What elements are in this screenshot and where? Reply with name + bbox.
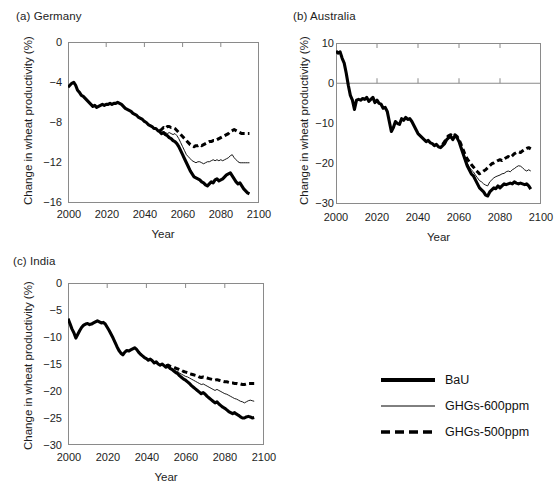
legend-item-ghgs-600ppm: GHGs-600ppm xyxy=(380,399,529,413)
y-tick-germany-3: −12 xyxy=(24,156,62,168)
plot-area-india xyxy=(68,283,264,445)
x-axis-label-germany: Year xyxy=(68,228,258,240)
panel-australia: (b) Australia Change in wheat productivi… xyxy=(280,0,559,250)
x-tick-india-5: 2100 xyxy=(241,451,287,463)
y-tick-india-3: −15 xyxy=(24,358,62,370)
y-tick-germany-0: 0 xyxy=(24,36,62,48)
legend-label-ghgs-600ppm: GHGs-600ppm xyxy=(445,399,529,413)
y-tick-australia-2: −10 xyxy=(296,117,334,129)
legend-item-bau: BaU xyxy=(380,373,469,387)
panel-title-germany: (a) Germany xyxy=(16,10,82,22)
panel-title-india: (c) India xyxy=(13,255,55,267)
plot-area-germany xyxy=(68,42,259,203)
x-tick-australia-1: 2020 xyxy=(354,211,400,223)
x-tick-australia-5: 2100 xyxy=(518,211,559,223)
x-axis-label-australia: Year xyxy=(336,231,541,243)
x-tick-australia-3: 2060 xyxy=(436,211,482,223)
y-tick-australia-0: 10 xyxy=(296,37,334,49)
legend-swatch-bau xyxy=(380,373,436,387)
plot-area-australia xyxy=(336,43,541,204)
x-axis-label-india: Year xyxy=(68,471,264,483)
y-tick-australia-1: 0 xyxy=(296,77,334,89)
legend-swatch-ghgs-600ppm xyxy=(380,399,436,413)
y-tick-australia-3: −20 xyxy=(296,157,334,169)
y-tick-india-5: −25 xyxy=(24,412,62,424)
panel-germany: (a) Germany Change in wheat productivity… xyxy=(0,0,280,250)
x-tick-germany-5: 2100 xyxy=(236,208,282,220)
legend-label-ghgs-500ppm: GHGs-500ppm xyxy=(445,425,529,439)
legend-label-bau: BaU xyxy=(445,373,469,387)
legend-item-ghgs-500ppm: GHGs-500ppm xyxy=(380,425,529,439)
y-tick-india-0: 0 xyxy=(24,277,62,289)
x-tick-australia-0: 2000 xyxy=(313,211,359,223)
legend-swatch-ghgs-500ppm xyxy=(380,425,436,439)
panel-title-australia: (b) Australia xyxy=(293,10,356,22)
legend: BaU GHGs-600ppm GHGs-500ppm xyxy=(380,373,555,453)
y-tick-india-1: −5 xyxy=(24,304,62,316)
x-tick-australia-4: 2080 xyxy=(477,211,523,223)
y-tick-india-4: −20 xyxy=(24,385,62,397)
x-tick-australia-2: 2040 xyxy=(395,211,441,223)
y-tick-germany-2: −8 xyxy=(24,116,62,128)
y-tick-germany-1: −4 xyxy=(24,76,62,88)
y-tick-india-2: −10 xyxy=(24,331,62,343)
y-tick-germany-4: −16 xyxy=(24,196,62,208)
y-tick-australia-4: −30 xyxy=(296,197,334,209)
panel-india: (c) India Change in wheat productivity (… xyxy=(0,250,280,502)
y-tick-india-6: −30 xyxy=(24,439,62,451)
